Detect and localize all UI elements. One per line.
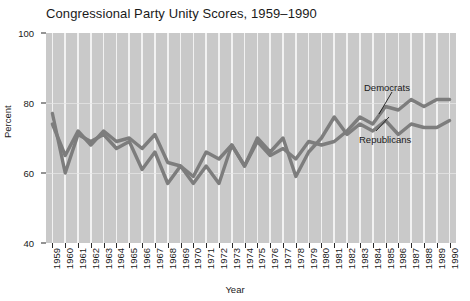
y-tick-60: 60 [23, 168, 34, 179]
y-tick-40: 40 [23, 238, 34, 249]
x-tick-1986: 1986 [397, 248, 408, 269]
x-tick-1982: 1982 [346, 248, 357, 269]
chart-root: Congressional Party Unity Scores, 1959–1… [0, 0, 470, 301]
x-tick-1961: 1961 [77, 248, 88, 269]
x-axis-tick-labels: 1959196019611962196319641965196619671968… [46, 248, 456, 282]
y-tick-80: 80 [23, 98, 34, 109]
x-tick-1965: 1965 [128, 248, 139, 269]
x-tick-1959: 1959 [51, 248, 62, 269]
x-tick-1972: 1972 [217, 248, 228, 269]
x-tick-1983: 1983 [358, 248, 369, 269]
y-axis-tick-labels: 406080100 [0, 33, 40, 243]
x-tick-1968: 1968 [166, 248, 177, 269]
series-line-republicans [52, 117, 449, 177]
x-tick-1978: 1978 [294, 248, 305, 269]
x-tick-1967: 1967 [153, 248, 164, 269]
x-tick-1974: 1974 [243, 248, 254, 269]
x-tick-1964: 1964 [115, 248, 126, 269]
x-tick-1981: 1981 [333, 248, 344, 269]
x-tick-1976: 1976 [269, 248, 280, 269]
annotation-republicans: Republicans [359, 134, 411, 145]
x-tick-1990: 1990 [448, 248, 459, 269]
x-tick-1971: 1971 [205, 248, 216, 269]
x-tick-1962: 1962 [89, 248, 100, 269]
x-tick-1984: 1984 [371, 248, 382, 269]
chart-title: Congressional Party Unity Scores, 1959–1… [46, 6, 456, 21]
x-tick-1970: 1970 [192, 248, 203, 269]
x-tick-1989: 1989 [435, 248, 446, 269]
x-tick-1985: 1985 [384, 248, 395, 269]
x-tick-1969: 1969 [179, 248, 190, 269]
x-tick-1980: 1980 [320, 248, 331, 269]
x-tick-1960: 1960 [64, 248, 75, 269]
y-tick-100: 100 [18, 28, 34, 39]
x-tick-1977: 1977 [282, 248, 293, 269]
x-tick-1963: 1963 [102, 248, 113, 269]
x-tick-1979: 1979 [307, 248, 318, 269]
x-tick-1966: 1966 [141, 248, 152, 269]
x-axis-title: Year [0, 284, 470, 295]
x-tick-1988: 1988 [422, 248, 433, 269]
x-tick-1987: 1987 [410, 248, 421, 269]
x-tick-1973: 1973 [230, 248, 241, 269]
x-tick-1975: 1975 [256, 248, 267, 269]
annotation-democrats: Democrats [364, 82, 410, 93]
